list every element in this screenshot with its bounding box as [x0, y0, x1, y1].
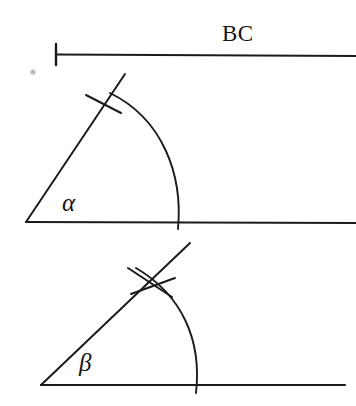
- angle-beta-label: β: [79, 350, 91, 375]
- scan-speck-dot: [30, 69, 35, 74]
- construction-drawing: [0, 0, 356, 406]
- angle-beta-ray: [41, 243, 190, 385]
- geometry-figure: BC α β: [0, 0, 356, 406]
- segment-bc-line: [56, 55, 356, 57]
- angle-alpha-baseline: [26, 222, 356, 223]
- angle-alpha-label: α: [62, 190, 75, 215]
- segment-bc-label: BC: [222, 22, 254, 45]
- segment-bc-group: [56, 44, 356, 65]
- angle-alpha-ray: [26, 74, 125, 222]
- angle-alpha-group: [26, 74, 356, 229]
- angle-alpha-tick-mark-1: [86, 95, 121, 113]
